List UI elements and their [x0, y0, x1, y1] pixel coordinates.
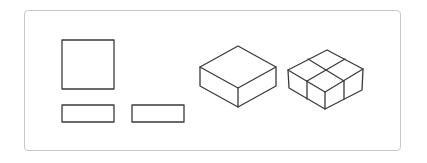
box-plain-left-face	[200, 67, 238, 107]
isometric-box-plain	[200, 46, 276, 107]
rectangle-piece-1	[62, 105, 114, 122]
box-plain-top-face	[200, 46, 276, 88]
square-piece	[62, 40, 114, 89]
isometric-box-divided	[288, 50, 363, 109]
rectangle-piece-2	[132, 105, 184, 122]
box-plain-right-face	[238, 67, 276, 107]
diagram-canvas	[0, 0, 427, 163]
